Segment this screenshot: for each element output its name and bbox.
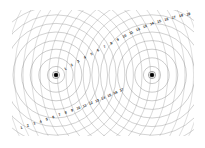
fringe-order-label: 1	[20, 126, 23, 130]
wavefront-circle	[0, 0, 194, 148]
fringe-order-label: 14	[149, 21, 154, 26]
wavefront-circle	[0, 0, 151, 148]
fringe-order-label: 4	[83, 56, 87, 60]
fringe-order-label: 11	[129, 30, 134, 35]
fringe-order-label: 15	[107, 93, 112, 98]
fringe-order-label: 8	[64, 111, 67, 115]
fringe-order-label: 9	[116, 38, 120, 42]
fringe-order-label: 11	[82, 103, 87, 108]
fringe-order-label: 12	[88, 101, 93, 106]
fringe-order-label: 7	[103, 45, 107, 49]
fringe-order-label: 4	[39, 119, 42, 123]
fringe-order-label: 9	[71, 108, 74, 112]
source-group	[52, 71, 155, 78]
fringe-order-label: 5	[45, 117, 48, 121]
source-left	[54, 73, 58, 77]
fringe-order-label: 18	[179, 13, 184, 18]
fringe-order-label: 16	[164, 17, 169, 22]
fringe-order-label: 16	[113, 90, 118, 95]
fringe-order-label: 2	[26, 124, 29, 128]
fringe-order-label: 10	[76, 106, 81, 111]
fringe-order-label: 1	[64, 67, 68, 71]
fringe-order-label: 7	[58, 113, 61, 117]
fringe-order-label: 15	[157, 19, 162, 24]
fringe-order-label: 6	[52, 115, 55, 119]
fringe-label-group-bottom: 1234567891011121314151617	[20, 87, 124, 130]
fringe-order-label: 10	[122, 34, 127, 39]
fringe-order-label: 19	[186, 12, 191, 17]
wavefront-group	[0, 0, 205, 148]
wavefront-circle	[0, 6, 125, 144]
interference-diagram: 12345678910111213141516171819 1234567891…	[0, 0, 205, 148]
fringe-order-label: 17	[171, 15, 176, 20]
source-right	[150, 73, 154, 77]
fringe-order-label: 2	[70, 63, 74, 67]
fringe-order-label: 6	[96, 48, 100, 52]
interference-figure: 12345678910111213141516171819 1234567891…	[0, 0, 205, 148]
fringe-order-label: 13	[95, 98, 100, 103]
fringe-order-label: 3	[77, 59, 81, 63]
fringe-order-label: 13	[142, 24, 147, 29]
wavefront-circle	[75, 0, 205, 148]
